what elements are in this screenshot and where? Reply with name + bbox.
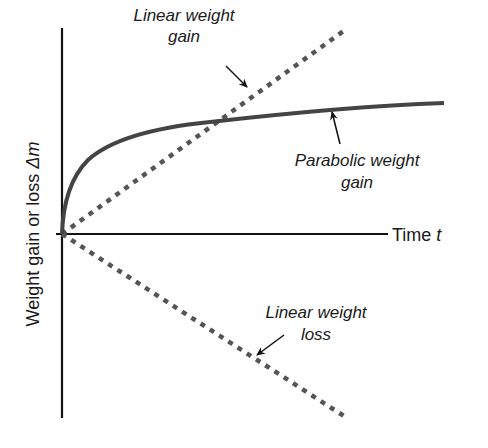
linear-gain-label-line2: gain [168,27,200,46]
annotation-parabolic-weight-gain: Parabolic weight gain [295,112,421,192]
linear-loss-label-line1: Linear weight [265,303,367,322]
axes [56,28,388,418]
svg-text:loss: loss [301,325,332,344]
arrow-icon [332,112,340,144]
svg-text:gain: gain [168,27,200,46]
svg-text:Linear weight: Linear weight [133,6,235,25]
parabolic-label-line2: gain [341,173,373,192]
x-axis-label: Time t [392,225,442,245]
y-axis-label: Weight gain or loss Δm [23,142,43,327]
annotation-linear-weight-gain: Linear weight gain [133,6,247,87]
linear-gain-label-line1: Linear weight [133,6,235,25]
linear-loss-label-line2: loss [301,325,332,344]
oxidation-kinetics-diagram: Linear weight gain Parabolic weight gain… [0,0,488,448]
svg-text:Linear weight: Linear weight [265,303,367,322]
svg-text:Parabolic weight: Parabolic weight [295,151,421,170]
arrow-icon [257,335,284,355]
parabolic-label-line1: Parabolic weight [295,151,421,170]
arrow-icon [226,66,247,87]
linear-weight-gain-line [62,30,345,234]
annotation-linear-weight-loss: Linear weight loss [257,303,368,355]
svg-text:gain: gain [341,173,373,192]
